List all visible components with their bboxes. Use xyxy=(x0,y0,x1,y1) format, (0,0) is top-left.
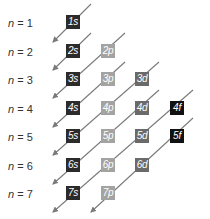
shell-label-4: n = 4 xyxy=(8,103,33,116)
orbital-3p: 3p xyxy=(101,72,115,86)
orbital-6p: 6p xyxy=(101,158,115,172)
orbital-4f: 4f xyxy=(170,101,184,115)
orbital-5f: 5f xyxy=(170,129,184,143)
orbital-7p: 7p xyxy=(101,186,115,200)
orbital-4p: 4p xyxy=(101,101,115,115)
orbital-7s: 7s xyxy=(66,186,80,200)
shell-label-3: n = 3 xyxy=(8,74,33,87)
orbital-6d: 6d xyxy=(135,158,149,172)
orbital-3s: 3s xyxy=(66,72,80,86)
orbital-5s: 5s xyxy=(66,129,80,143)
orbital-2s: 2s xyxy=(66,44,80,58)
orbital-6s: 6s xyxy=(66,158,80,172)
orbital-2p: 2p xyxy=(101,44,115,58)
orbital-1s: 1s xyxy=(66,15,80,29)
shell-label-1: n = 1 xyxy=(8,17,33,30)
arrow-3 xyxy=(53,33,125,98)
shell-label-6: n = 6 xyxy=(8,160,33,173)
orbital-4d: 4d xyxy=(135,101,149,115)
orbital-5d: 5d xyxy=(135,129,149,143)
shell-label-5: n = 5 xyxy=(8,131,33,144)
orbital-4s: 4s xyxy=(66,101,80,115)
shell-label-7: n = 7 xyxy=(8,188,33,201)
orbital-3d: 3d xyxy=(135,72,149,86)
shell-label-2: n = 2 xyxy=(8,46,33,59)
orbital-5p: 5p xyxy=(101,129,115,143)
